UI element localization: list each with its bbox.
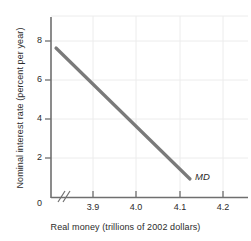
axis-break-icon <box>58 191 70 202</box>
y-tick-label-0: 0 <box>26 198 42 208</box>
x-tick-label-4-2: 4.2 <box>208 202 238 212</box>
y-tick-label-8: 8 <box>26 35 42 45</box>
x-tick-marks <box>93 191 223 197</box>
money-demand-curve-label: MD <box>195 171 210 182</box>
x-tick-label-4-1: 4.1 <box>165 202 195 212</box>
x-tick-label-3-9: 3.9 <box>78 202 108 212</box>
x-tick-label-4-0: 4.0 <box>121 202 151 212</box>
y-tick-label-6: 6 <box>26 74 42 84</box>
money-demand-curve <box>56 48 190 179</box>
y-tick-label-4: 4 <box>26 113 42 123</box>
gridlines <box>51 16 248 197</box>
money-demand-chart: 8 6 4 2 0 3.9 4.0 4.1 4.2 MD Real money … <box>0 0 251 241</box>
y-tick-label-2: 2 <box>26 152 42 162</box>
x-axis-title: Real money (trillions of 2002 dollars) <box>0 222 251 232</box>
y-tick-marks <box>45 41 51 158</box>
y-axis-title: Nominal interest rate (percent per year) <box>15 10 25 206</box>
